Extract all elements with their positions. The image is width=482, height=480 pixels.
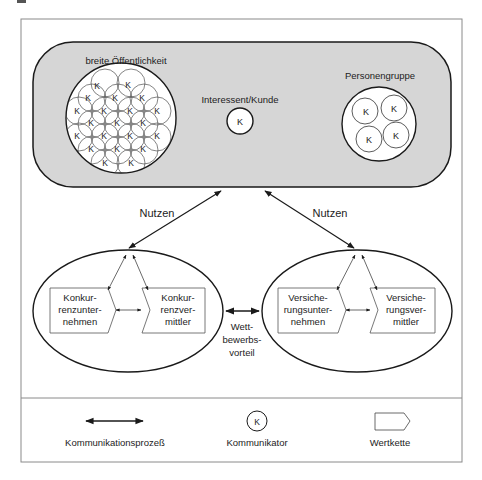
insurance-broker-box: Versiche- rungsver- mittler — [374, 292, 438, 328]
benefit-label-left: Nutzen — [132, 208, 182, 219]
group-communicator-cluster: KK KK — [342, 87, 416, 161]
competitive-advantage-label: Wett- bewerbs- vorteil — [214, 320, 270, 359]
svg-text:K: K — [393, 131, 399, 141]
svg-text:K: K — [154, 106, 160, 116]
person-group-label: Personengruppe — [335, 70, 425, 81]
svg-text:K: K — [140, 118, 146, 128]
svg-text:K: K — [237, 117, 243, 127]
svg-text:K: K — [127, 106, 133, 116]
svg-text:K: K — [139, 93, 145, 103]
svg-text:K: K — [112, 93, 118, 103]
legend-value-chain: Wertkette — [360, 437, 420, 448]
competitor-company-box: Konkur- renzunter- nehmen — [50, 292, 110, 328]
svg-text:K: K — [128, 158, 134, 168]
communicator-k-icon: K — [247, 411, 267, 431]
svg-text:K: K — [74, 106, 80, 116]
svg-text:K: K — [88, 118, 94, 128]
svg-text:K: K — [140, 144, 146, 154]
customer-communicator: K — [227, 108, 253, 134]
svg-text:K: K — [85, 93, 91, 103]
svg-text:K: K — [74, 131, 80, 141]
svg-text:K: K — [366, 135, 372, 145]
svg-text:K: K — [101, 106, 107, 116]
competitor-broker-box: Konkur- renzver- mittler — [148, 292, 208, 328]
svg-text:K: K — [102, 158, 108, 168]
svg-text:K: K — [125, 80, 131, 90]
benefit-label-right: Nutzen — [305, 208, 355, 219]
svg-text:K: K — [94, 81, 100, 91]
svg-text:K: K — [114, 144, 120, 154]
benefit-arrow-right — [265, 191, 354, 248]
corner-mark — [17, 0, 26, 3]
benefit-arrow-left — [129, 191, 221, 248]
legend-communication-process: Kommunikationsprozeß — [55, 437, 175, 448]
svg-text:K: K — [363, 107, 369, 117]
svg-text:K: K — [391, 104, 397, 114]
svg-text:K: K — [101, 131, 107, 141]
svg-text:K: K — [88, 144, 94, 154]
insurance-company-box: Versiche- rungsunter- nehmen — [276, 292, 340, 328]
value-chain-pentagon-icon — [375, 413, 410, 430]
customer-label: Interessent/Kunde — [190, 94, 290, 105]
legend-communicator: Kommunikator — [217, 437, 297, 448]
svg-text:K: K — [154, 131, 160, 141]
svg-text:K: K — [114, 118, 120, 128]
public-label: breite Öffentlichkeit — [76, 55, 176, 66]
svg-text:K: K — [127, 131, 133, 141]
svg-text:K: K — [254, 417, 260, 427]
